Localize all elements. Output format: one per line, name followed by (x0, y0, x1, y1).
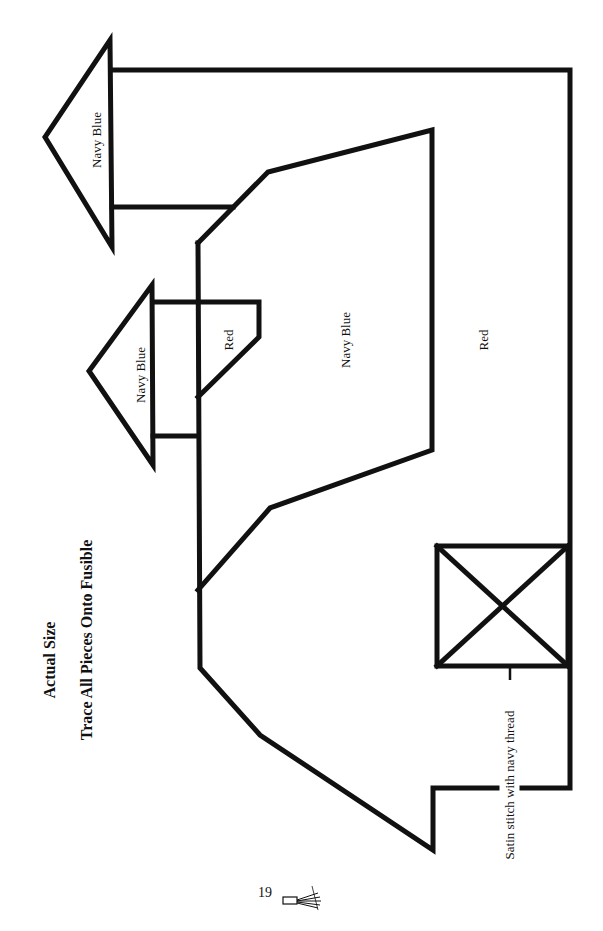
large-arrow-label: Navy Blue (89, 112, 104, 168)
page-number: 19 (258, 885, 272, 901)
heading-line-1: Actual Size (41, 622, 58, 699)
small-block-piece (153, 302, 259, 397)
satin-stitch-annotation: Satin stitch with navy thread (502, 710, 517, 859)
center-body-label: Navy Blue (338, 312, 353, 368)
heading-line-2: Trace All Pieces Onto Fusible (78, 540, 95, 741)
small-block-label: Red (221, 329, 236, 350)
pattern-diagram: Navy Blue Navy Blue Red Navy Blue Red Sa… (0, 0, 603, 931)
small-arrow-label: Navy Blue (133, 347, 148, 403)
x-box-marker (437, 546, 568, 666)
tassel-icon (283, 886, 321, 910)
outer-body-label: Red (476, 329, 491, 350)
